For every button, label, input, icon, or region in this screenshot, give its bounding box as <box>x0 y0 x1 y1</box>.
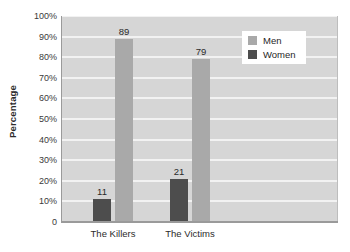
y-axis-tick-label: 80% <box>39 52 57 62</box>
bar-value-label: 21 <box>174 166 185 177</box>
bar-men-the-victims <box>192 59 210 222</box>
y-axis-tick-label: 20% <box>39 176 57 186</box>
legend-swatch-icon <box>248 36 257 45</box>
legend-item-women: Women <box>248 49 296 60</box>
legend-label: Men <box>263 35 281 46</box>
y-axis-tick-label: 10% <box>39 196 57 206</box>
bar-chart: Percentage 010%20%30%40%50%60%70%80%90%1… <box>0 0 350 252</box>
legend-label: Women <box>263 49 296 60</box>
bar-women-the-killers <box>93 199 111 222</box>
y-axis-tick-labels: 010%20%30%40%50%60%70%80%90%100% <box>26 16 60 222</box>
legend-item-men: Men <box>248 35 296 46</box>
y-axis-tick-label: 90% <box>39 32 57 42</box>
y-axis-tick-label: 40% <box>39 135 57 145</box>
bar-value-label: 79 <box>196 46 207 57</box>
y-axis-tick-label: 100% <box>34 11 57 21</box>
legend-swatch-icon <box>248 50 257 59</box>
bar-men-the-killers <box>115 39 133 222</box>
x-axis-category-label: The Killers <box>91 228 136 239</box>
y-axis-tick-label: 70% <box>39 73 57 83</box>
bar-value-label: 11 <box>97 186 107 197</box>
y-axis-tick-label: 30% <box>39 155 57 165</box>
bar-value-label: 89 <box>119 26 130 37</box>
bar-women-the-victims <box>170 179 188 222</box>
x-axis-category-label: The Victims <box>165 228 214 239</box>
y-axis-title: Percentage <box>0 0 26 222</box>
y-axis-title-text: Percentage <box>8 84 19 137</box>
y-axis-tick-label: 50% <box>39 114 57 124</box>
y-axis-tick-label: 60% <box>39 93 57 103</box>
x-axis-line <box>62 221 338 223</box>
gridline <box>62 16 337 17</box>
chart-legend: MenWomen <box>242 31 306 64</box>
y-axis-tick-label: 0 <box>52 217 57 227</box>
